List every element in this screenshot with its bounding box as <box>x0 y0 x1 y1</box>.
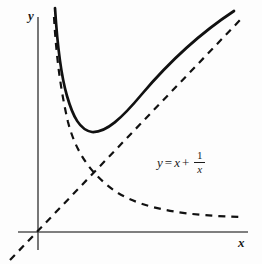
fraction-denominator: x <box>195 163 204 175</box>
equation-annotation: y = x + 1 x <box>157 150 205 175</box>
equation-lhs: y <box>157 155 163 171</box>
equation-fraction: 1 x <box>194 150 205 175</box>
math-figure: y x y = x + 1 x <box>0 0 262 264</box>
curve-one-over-x <box>54 17 244 217</box>
x-axis-label: x <box>238 236 245 249</box>
asymptote-y-equals-x <box>10 18 242 260</box>
y-axis-label: y <box>28 9 34 22</box>
axes-group <box>18 17 248 250</box>
equation-plus-sign: + <box>182 155 189 171</box>
fraction-numerator: 1 <box>195 150 205 162</box>
plot-canvas <box>0 0 262 264</box>
equation-x-term: x <box>174 155 180 171</box>
curve-x-plus-one-over-x <box>55 8 234 132</box>
equation-equals-sign: = <box>165 155 172 171</box>
